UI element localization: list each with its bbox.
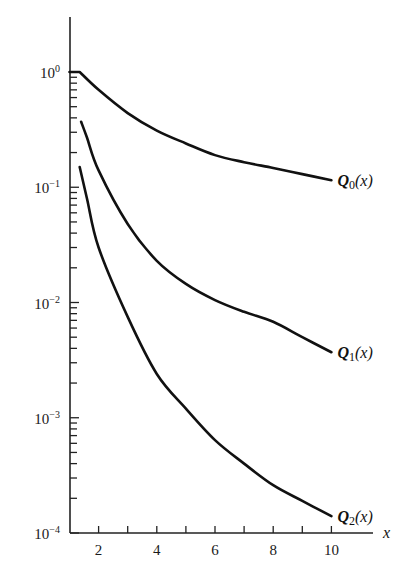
x-ticks [99, 526, 332, 533]
curve-q1x [81, 122, 331, 353]
y-tick-label: 10−3 [34, 409, 60, 427]
x-tick-label: 6 [211, 542, 219, 558]
x-tick-labels: 246810 [95, 542, 339, 558]
curve-labels: Q0(x)Q1(x)Q2(x) [337, 172, 372, 528]
label-q2x: Q2(x) [337, 508, 372, 528]
curve-q2x [80, 167, 332, 516]
x-tick-label: 8 [269, 542, 277, 558]
curves [70, 72, 332, 516]
y-tick-label: 10−2 [34, 294, 60, 312]
axes [70, 17, 373, 533]
curve-q0x [70, 72, 332, 180]
label-q1x: Q1(x) [337, 344, 372, 364]
chart-canvas: 10010−110−210−310−4 246810 x Q0(x)Q1(x)Q… [0, 0, 411, 582]
y-ticks [70, 72, 79, 533]
x-tick-label: 4 [153, 542, 161, 558]
x-tick-label: 10 [324, 542, 339, 558]
y-tick-label: 100 [40, 63, 60, 81]
y-tick-label: 10−4 [34, 524, 60, 542]
x-axis-title: x [382, 524, 390, 541]
y-tick-labels: 10010−110−210−310−4 [34, 63, 60, 542]
label-q0x: Q0(x) [337, 172, 372, 192]
y-tick-label: 10−1 [34, 178, 60, 196]
x-tick-label: 2 [95, 542, 103, 558]
